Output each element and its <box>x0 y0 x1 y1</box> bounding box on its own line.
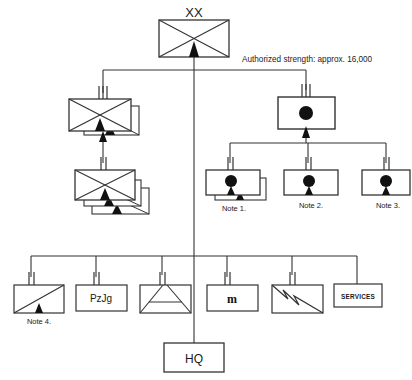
artillery-regiment-circle-icon <box>299 106 313 120</box>
artillery-battalion-1-circle-icon <box>225 175 237 187</box>
artillery-battalion-3-note: Note 3. <box>376 201 400 210</box>
artillery-regiment-echelon-III <box>302 84 310 97</box>
services-label: SERVICES <box>341 293 375 300</box>
artillery-battalion-2-note: Note 2. <box>299 201 323 210</box>
authorized-strength-label: Authorized strength: approx. 16,000 <box>242 55 373 64</box>
engineer-box[interactable] <box>140 285 191 313</box>
artillery-battalion-2-unit[interactable]: Note 2. <box>284 157 338 210</box>
artillery-regiment-unit[interactable] <box>278 84 335 138</box>
reconnaissance-note: Note 4. <box>27 317 51 326</box>
artillery-battalion-1-note: Note 1. <box>222 204 246 213</box>
medical-label: m <box>227 292 237 306</box>
panzerjager-label: PzJg <box>90 293 112 304</box>
artillery-battalion-1-unit[interactable]: Note 1. <box>206 157 266 213</box>
hq-unit[interactable]: HQ <box>164 343 224 372</box>
reconnaissance-unit[interactable]: Note 4. <box>14 272 64 326</box>
artillery-battalion-3-unit[interactable]: Note 3. <box>362 157 410 210</box>
infantry-regiment-unit[interactable] <box>69 86 139 142</box>
artillery-battalion-3-circle-icon <box>380 175 392 187</box>
services-unit[interactable]: SERVICES <box>334 284 382 307</box>
signals-unit[interactable] <box>272 272 323 313</box>
medical-unit[interactable]: m <box>207 272 258 311</box>
org-chart-root: XX Authorized strength: approx. 16,000 <box>0 0 412 380</box>
division-echelon: XX <box>185 5 203 20</box>
artillery-battalion-2-circle-icon <box>303 175 315 187</box>
panzerjager-unit[interactable]: PzJg <box>76 272 127 311</box>
infantry-battalion-group[interactable] <box>75 157 149 214</box>
division-unit[interactable]: XX <box>159 5 229 57</box>
infantry-regiment-echelon-III <box>99 86 107 99</box>
engineer-unit[interactable] <box>140 272 191 313</box>
org-chart-svg: XX Authorized strength: approx. 16,000 <box>0 0 412 380</box>
hq-label: HQ <box>185 352 203 366</box>
